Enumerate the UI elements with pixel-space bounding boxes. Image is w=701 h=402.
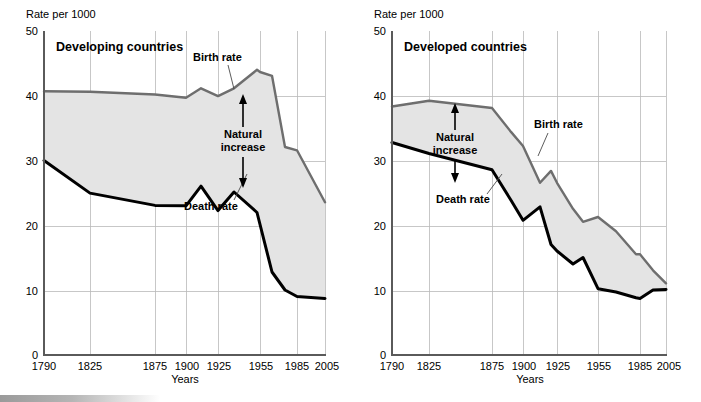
footer-accent-bar <box>0 395 160 402</box>
x-tick-1985-right: 1985 <box>628 360 652 372</box>
natural-increase-down-arrowhead-right <box>451 173 459 183</box>
y-tick-labels-left: 50 40 30 20 10 0 <box>26 25 38 361</box>
x-tick-1825-right: 1825 <box>417 360 441 372</box>
x-tick-labels-left: 1790 1825 1875 1900 1925 1955 1985 2005 <box>32 360 339 372</box>
x-tick-1900-right: 1900 <box>512 360 536 372</box>
birth-rate-label-left: Birth rate <box>193 51 242 63</box>
y-tick-30-right: 30 <box>374 155 386 167</box>
x-tick-1900-left: 1900 <box>175 360 199 372</box>
x-tick-2005-right: 2005 <box>657 360 681 372</box>
y-tick-10-right: 10 <box>374 285 386 297</box>
x-tick-1825-left: 1825 <box>78 360 102 372</box>
x-tick-1955-left: 1955 <box>249 360 273 372</box>
panel-developing: Rate per 1000 50 40 30 20 10 <box>26 8 339 385</box>
y-tick-labels-right: 50 40 30 20 10 0 <box>374 25 386 361</box>
x-tick-1790-right: 1790 <box>380 360 404 372</box>
plot-area-left <box>44 70 325 299</box>
natural-increase-label-line1-left: Natural <box>224 128 262 140</box>
x-tick-2005-left: 2005 <box>315 360 339 372</box>
natural-increase-label-line2-left: increase <box>221 141 266 153</box>
death-rate-label-right: Death rate <box>436 193 490 205</box>
y-tick-30-left: 30 <box>26 155 38 167</box>
death-rate-label-left: Death rate <box>184 200 238 212</box>
x-tick-1985-left: 1985 <box>285 360 309 372</box>
y-axis-caption-right: Rate per 1000 <box>374 8 444 20</box>
demographic-transition-figure: Rate per 1000 50 40 30 20 10 <box>0 0 701 402</box>
y-tick-10-left: 10 <box>26 285 38 297</box>
y-axis-caption-left: Rate per 1000 <box>26 8 96 20</box>
y-tick-50-left: 50 <box>26 25 38 37</box>
natural-increase-label-line2-right: increase <box>433 144 478 156</box>
y-tick-40-left: 40 <box>26 90 38 102</box>
panel-title-developed: Developed countries <box>404 40 527 54</box>
panel-developed: Rate per 1000 50 40 30 20 10 <box>374 8 681 385</box>
x-axis-caption-right: Years <box>516 373 544 385</box>
x-axis-caption-left: Years <box>171 373 199 385</box>
birth-rate-leader-left <box>228 65 234 89</box>
natural-increase-band-left <box>44 70 325 299</box>
plot-area-right <box>392 101 666 299</box>
x-tick-1925-left: 1925 <box>207 360 231 372</box>
natural-increase-label-line1-right: Natural <box>436 131 474 143</box>
birth-rate-leader-right <box>538 133 548 156</box>
x-tick-labels-right: 1790 1825 1875 1900 1925 1955 1985 2005 <box>380 360 681 372</box>
birth-rate-annotation-right: Birth rate <box>534 118 583 156</box>
x-tick-1875-right: 1875 <box>480 360 504 372</box>
y-tick-40-right: 40 <box>374 90 386 102</box>
birth-rate-label-right: Birth rate <box>534 118 583 130</box>
birth-rate-annotation-left: Birth rate <box>193 51 242 89</box>
x-tick-1955-right: 1955 <box>587 360 611 372</box>
y-tick-50-right: 50 <box>374 25 386 37</box>
x-tick-1925-right: 1925 <box>546 360 570 372</box>
y-tick-20-left: 20 <box>26 220 38 232</box>
x-tick-1875-left: 1875 <box>143 360 167 372</box>
y-tick-20-right: 20 <box>374 220 386 232</box>
natural-increase-band-right <box>392 101 666 299</box>
panel-title-developing: Developing countries <box>56 40 183 54</box>
x-tick-1790-left: 1790 <box>32 360 56 372</box>
